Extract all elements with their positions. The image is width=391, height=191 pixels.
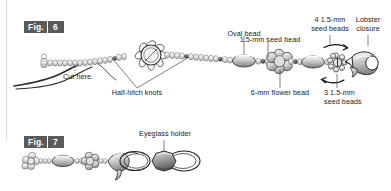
fig6-badge-number: 6 xyxy=(48,22,63,32)
oval-bead-2 xyxy=(302,56,325,68)
fig7-seed-chain-2 xyxy=(75,159,83,164)
crimp-end xyxy=(41,54,47,68)
oval-bead-1 xyxy=(233,55,256,67)
fig7-badge-word: Fig. xyxy=(25,137,47,147)
label-cut-here: Cut here. xyxy=(63,73,93,82)
left-margin-rule xyxy=(6,0,7,140)
fig6-leader-lines xyxy=(75,35,368,88)
connector-beads-2 xyxy=(289,59,303,65)
fig6-badge: Fig. 6 xyxy=(24,21,64,33)
fig7-seed-chain-1 xyxy=(39,159,51,164)
label-3-seed-beads: 3 1.5-mm seed beads xyxy=(324,89,376,106)
label-half-hitch-knots: Half-hitch knots xyxy=(100,89,174,98)
lobster-clasp xyxy=(345,52,378,77)
rosette-bead xyxy=(134,39,168,70)
label-15mm-seed-bead: 1.5-mm seed bead xyxy=(228,36,312,45)
label-6mm-flower-bead: 6-mm flower bead xyxy=(241,89,319,98)
fig7-clasp xyxy=(108,153,129,180)
label-eyeglass-holder: Eyeglass holder xyxy=(131,130,199,139)
figure-sheet: Fig. 6 Oval bead 1.5-mm seed bead 4 1.5-… xyxy=(0,0,391,191)
seed-bead-run-mid xyxy=(165,52,233,63)
flower-bead-6mm xyxy=(267,49,292,73)
fig7-eyeglass-holder-bead xyxy=(152,151,176,171)
fig7-badge: Fig. 7 xyxy=(24,136,64,148)
rotation-arrows xyxy=(322,45,348,83)
connector-beads-1 xyxy=(256,58,270,64)
fig7-flower-bead xyxy=(81,152,99,170)
fig7-seed-chain-3 xyxy=(99,159,107,164)
fig7-rosette xyxy=(22,152,40,169)
fig7-cord-loops xyxy=(120,151,200,171)
fig7-badge-number: 7 xyxy=(48,137,63,147)
seed-bead-run-left xyxy=(48,54,127,67)
label-lobster-closure: Lobster closure xyxy=(345,16,391,33)
fig7-oval-bead xyxy=(52,155,74,166)
fig6-badge-word: Fig. xyxy=(25,22,47,32)
seed-bead-ring xyxy=(325,53,347,72)
